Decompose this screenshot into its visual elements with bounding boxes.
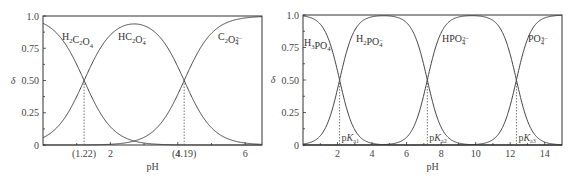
y-tick-label: 1.0 [27,11,40,22]
species-label: HPO42− [442,33,470,46]
pka-label: pKa3 [518,132,535,144]
species-label: HC2O4− [118,31,147,46]
oxalic-acid-distribution-chart: 00.250.500.751.0246(1.22)(4.19)δpHH2C2O4… [11,11,262,173]
pka-label: pKa1 [342,132,359,144]
x-axis-title: pH [146,161,158,172]
pka-value-label: (1.22) [72,148,96,160]
plot-frame [303,15,562,145]
species-label: H2PO4− [356,33,384,48]
species-curve-2 [303,16,562,145]
y-axis-title: δ [271,74,276,85]
species-curve-1 [303,16,562,145]
y-tick-label: 0.25 [282,107,300,118]
species-curve-0 [303,16,562,145]
x-tick-label: 2 [335,148,340,159]
species-label: PO43− [528,33,548,46]
x-tick-label: 8 [439,148,444,159]
x-tick-label: 2 [108,148,113,159]
y-tick-label: 0.50 [22,75,40,86]
x-axis-title: pH [426,161,438,172]
species-label: C2O42− [218,31,243,46]
x-tick-label: 12 [505,148,515,159]
pka-value-label: (4.19) [172,148,196,160]
y-tick-label: 0.25 [22,107,40,118]
x-tick-label: 10 [471,148,481,159]
y-tick-label: 0.75 [22,43,40,54]
species-curve-3 [303,15,562,145]
y-tick-label: 0.75 [282,42,300,53]
x-tick-label: 6 [404,148,409,159]
x-tick-label: 4 [370,148,375,159]
x-tick-label: 14 [540,148,550,159]
y-tick-label: 0 [294,140,299,151]
x-tick-label: 6 [243,148,248,159]
distribution-charts: 00.250.500.751.0246(1.22)(4.19)δpHH2C2O4… [0,0,570,176]
y-tick-label: 0.50 [282,75,300,86]
phosphoric-acid-distribution-chart: 00.250.500.751.02468101214pKa1pKa2pKa3δp… [271,10,562,173]
y-tick-label: 1.0 [287,10,300,21]
pka-label: pKa2 [429,132,446,144]
species-label: H3PO4 [304,37,331,52]
y-tick-label: 0 [34,140,39,151]
y-axis-title: δ [11,75,16,86]
